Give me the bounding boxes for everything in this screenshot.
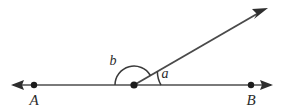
point-a-dot — [31, 82, 37, 88]
point-b-label: B — [246, 92, 255, 108]
vertex-point — [130, 81, 137, 88]
ray-arrowhead-icon — [252, 8, 268, 19]
angle-b-label: b — [110, 53, 117, 68]
geometry-figure: A B a b — [0, 0, 285, 112]
point-a-label: A — [28, 92, 39, 108]
arc-angle-a — [157, 72, 161, 86]
geometry-canvas: A B a b — [0, 0, 285, 112]
ray-from-vertex — [134, 11, 262, 85]
angle-a-label: a — [162, 66, 169, 81]
point-b-dot — [248, 82, 254, 88]
